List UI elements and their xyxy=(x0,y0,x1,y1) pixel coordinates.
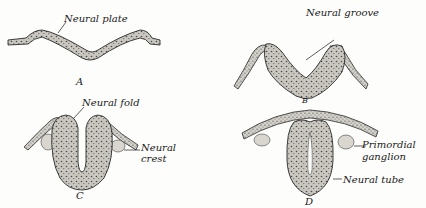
figure-c-neural-fold xyxy=(24,107,140,190)
figure-b-neural-groove xyxy=(234,40,368,99)
label-neural-groove: Neural groove xyxy=(306,7,379,18)
label-primordial-ganglion-line2: ganglion xyxy=(362,151,406,162)
label-neural-fold: Neural fold xyxy=(82,97,140,108)
figure-letter-c: C xyxy=(76,190,84,201)
neural-tube-development-diagram: Neural plate A Neural groove B Neural fo… xyxy=(0,0,426,208)
figure-a-neural-plate xyxy=(8,22,160,60)
label-neural-crest-line1: Neural xyxy=(141,142,176,153)
label-neural-crest-line2: crest xyxy=(141,153,166,164)
figure-letter-b: B xyxy=(302,96,308,105)
label-neural-plate: Neural plate xyxy=(64,13,128,24)
figure-letter-d: D xyxy=(305,196,313,207)
figure-letter-a: A xyxy=(76,76,83,87)
label-primordial-ganglion-line1: Primordial xyxy=(362,139,416,150)
label-neural-tube: Neural tube xyxy=(343,174,404,185)
